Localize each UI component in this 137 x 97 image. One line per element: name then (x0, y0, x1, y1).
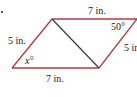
bottom-side-label: 7 in. (46, 73, 64, 84)
parallelogram-diagram: 7 in. 7 in. 5 in. 5 in. 50° x° (0, 0, 137, 97)
right-side-label: 5 in. (124, 42, 137, 53)
marker-dot (1, 11, 3, 13)
top-right-angle-label: 50° (111, 21, 125, 32)
bottom-left-angle-label: x° (24, 55, 33, 66)
diagonal (52, 19, 99, 68)
top-side-label: 7 in. (88, 5, 106, 16)
left-side-label: 5 in. (8, 35, 26, 46)
